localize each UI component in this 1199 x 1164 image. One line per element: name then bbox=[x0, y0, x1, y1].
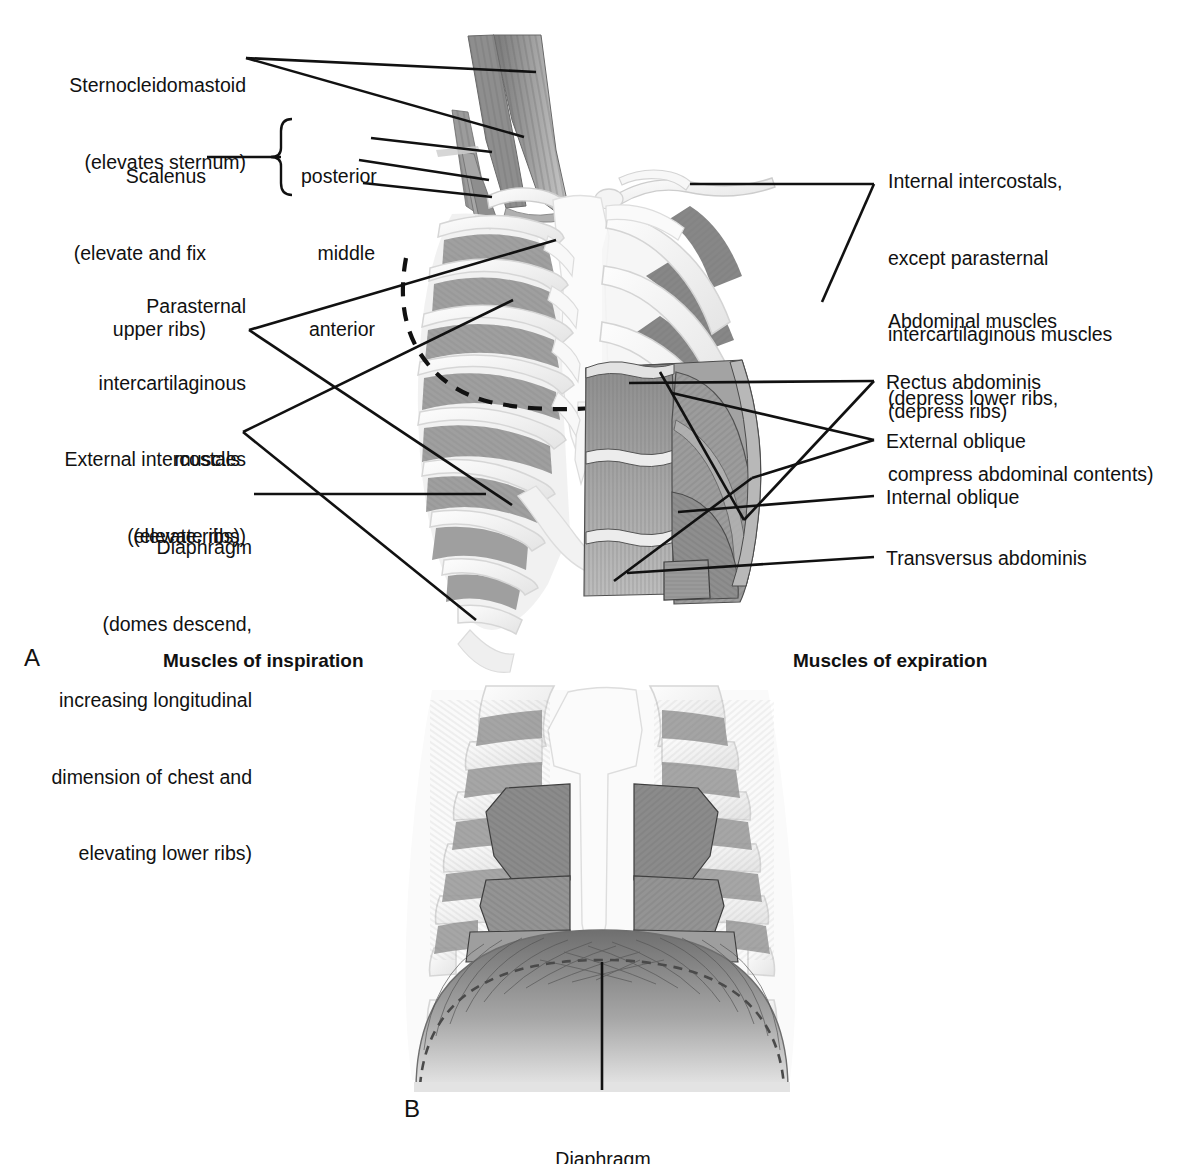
label-diaphragm-line4: dimension of chest and bbox=[10, 765, 252, 791]
label-diaphragm: Diaphragm (domes descend, increasing lon… bbox=[10, 484, 252, 918]
caption-muscles-of-inspiration: Muscles of inspiration bbox=[163, 650, 364, 672]
label-parasternal-line1: Parasternal bbox=[20, 294, 246, 320]
label-abdominal-muscles-line1: Abdominal muscles bbox=[888, 309, 1194, 335]
label-scalenus-branches: posterior middle anterior bbox=[301, 113, 375, 394]
label-external-intercostals-line1: External intercostals bbox=[14, 447, 240, 473]
caption-diaphragm-muscle-line1: Diaphragm bbox=[492, 1147, 714, 1164]
label-scalenus-middle: middle bbox=[301, 241, 375, 267]
label-diaphragm-line2: (domes descend, bbox=[10, 612, 252, 638]
abdominal-muscle-block bbox=[584, 360, 761, 604]
label-internal-intercostals-line1: Internal intercostals, bbox=[888, 169, 1188, 195]
caption-diaphragm-muscle: Diaphragm muscle bbox=[492, 1096, 714, 1164]
caption-muscles-of-expiration: Muscles of expiration bbox=[793, 650, 987, 672]
figure-canvas: Sternocleidomastoid (elevates sternum) S… bbox=[0, 0, 1199, 1164]
label-diaphragm-line5: elevating lower ribs) bbox=[10, 841, 252, 867]
rectus-abdominis-muscle bbox=[584, 362, 676, 596]
label-parasternal-line2: intercartilaginous bbox=[20, 371, 246, 397]
transversus-abdominis-muscle bbox=[664, 560, 710, 600]
panel-b-artwork bbox=[406, 686, 796, 1092]
label-external-oblique: External oblique bbox=[886, 429, 1146, 455]
label-scalenus-line1: Scalenus bbox=[30, 164, 206, 190]
label-scalenus-anterior: anterior bbox=[301, 317, 375, 343]
left-rib-cage bbox=[403, 213, 596, 672]
label-diaphragm-line3: increasing longitudinal bbox=[10, 688, 252, 714]
label-rectus-abdominis: Rectus abdominis bbox=[886, 370, 1146, 396]
panel-a-artwork bbox=[403, 35, 775, 672]
label-sternocleidomastoid-line1: Sternocleidomastoid bbox=[30, 73, 246, 99]
panel-a-id: A bbox=[24, 644, 40, 672]
label-scalenus-posterior: posterior bbox=[301, 164, 375, 190]
label-transversus-abdominis: Transversus abdominis bbox=[886, 546, 1166, 572]
label-internal-oblique: Internal oblique bbox=[886, 485, 1146, 511]
label-diaphragm-line1: Diaphragm bbox=[10, 535, 252, 561]
panel-b-id: B bbox=[404, 1095, 420, 1123]
label-abdominal-muscles-line3: compress abdominal contents) bbox=[888, 462, 1194, 488]
